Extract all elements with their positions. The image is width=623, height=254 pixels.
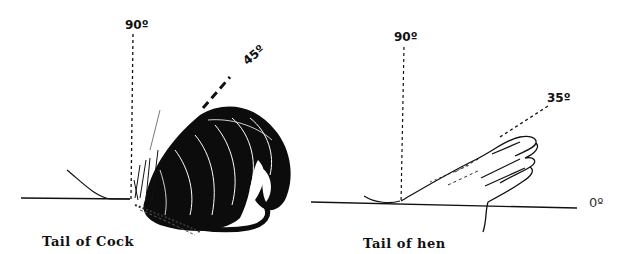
- hen-caption: Tail of hen: [363, 236, 446, 251]
- hen-35-degree-line: [500, 106, 548, 137]
- hen-tail-feathers: [401, 136, 538, 232]
- hen-panel: [311, 47, 577, 232]
- cock-vertical-reference-line: [131, 34, 133, 199]
- hen-90-degree-label: 90º: [394, 30, 417, 44]
- tail-angle-diagram: 90º 45º Tail of Cock 90º 35º 0º Tail of …: [0, 0, 623, 254]
- hen-body-outline: [364, 196, 400, 203]
- cock-body-outline: [67, 170, 130, 199]
- cock-90-degree-label: 90º: [125, 18, 148, 32]
- hen-baseline: [311, 202, 577, 208]
- cock-45-degree-line: [203, 77, 230, 108]
- cock-tail-feathers: [134, 107, 291, 235]
- cock-caption: Tail of Cock: [42, 234, 134, 249]
- hen-35-degree-label: 35º: [547, 91, 570, 105]
- hen-vertical-reference-line: [401, 47, 404, 203]
- hen-0-degree-label: 0º: [589, 195, 603, 210]
- diagram-drawing: [0, 0, 623, 254]
